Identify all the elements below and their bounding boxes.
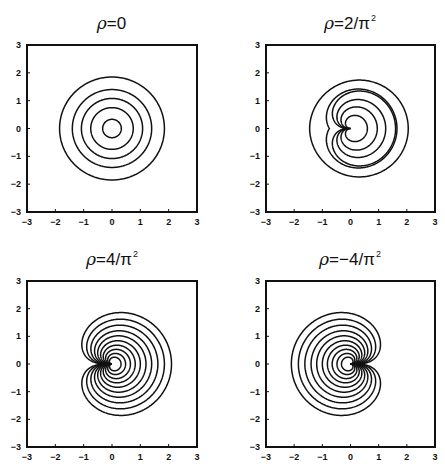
y-tick-label: 3 (255, 40, 260, 50)
y-tick-label: 0 (16, 359, 21, 369)
contour-line (345, 115, 367, 141)
x-tick-label: 1 (376, 217, 381, 227)
x-tick-label: 3 (194, 452, 199, 462)
x-tick-label: 2 (166, 452, 171, 462)
y-tick-label: −1 (250, 387, 260, 397)
y-tick-label: 2 (255, 68, 260, 78)
x-tick-label: −3 (261, 452, 271, 462)
y-tick-label: −1 (11, 151, 21, 161)
plot-frame (27, 45, 197, 212)
contour-line (60, 77, 165, 180)
x-tick-label: 3 (432, 217, 437, 227)
x-tick-label: −1 (79, 452, 89, 462)
y-tick-label: −2 (11, 414, 21, 424)
y-tick-label: −3 (250, 442, 260, 452)
plot-br: −3−2−10123−3−2−10123 (250, 276, 438, 462)
plot-tr: −3−2−10123−3−2−10123 (250, 40, 438, 227)
y-tick-label: 2 (16, 68, 21, 78)
contour-line (341, 107, 377, 150)
contour-line (110, 357, 122, 371)
x-tick-label: −2 (50, 452, 60, 462)
x-tick-label: 1 (376, 452, 381, 462)
x-tick-label: 0 (348, 217, 353, 227)
x-tick-label: −1 (317, 452, 327, 462)
plot-bl: −3−2−10123−3−2−10123 (11, 276, 200, 462)
y-tick-label: 2 (16, 304, 21, 314)
x-tick-label: 2 (166, 217, 171, 227)
plot-canvas: −3−2−10123−3−2−10123−3−2−10123−3−2−10123… (0, 0, 445, 472)
y-tick-label: 2 (255, 304, 260, 314)
x-tick-label: 0 (109, 217, 114, 227)
x-tick-label: 0 (109, 452, 114, 462)
x-tick-label: 2 (404, 452, 409, 462)
y-tick-label: 1 (16, 331, 21, 341)
y-tick-label: 1 (255, 331, 260, 341)
contour-line (91, 108, 134, 150)
contour-line (72, 90, 151, 168)
plot-tl: −3−2−10123−3−2−10123 (11, 40, 200, 227)
x-tick-label: −2 (50, 217, 60, 227)
y-tick-label: −2 (250, 414, 260, 424)
y-tick-label: −3 (11, 207, 21, 217)
y-tick-label: −2 (11, 179, 21, 189)
contour-line (103, 119, 122, 137)
y-tick-label: −2 (250, 179, 260, 189)
x-tick-label: −1 (79, 217, 89, 227)
y-tick-label: 0 (255, 124, 260, 134)
x-tick-label: −3 (261, 217, 271, 227)
y-tick-label: 1 (16, 96, 21, 106)
contour-line (341, 357, 352, 371)
y-tick-label: −3 (250, 207, 260, 217)
x-tick-label: −3 (22, 452, 32, 462)
x-tick-label: −2 (289, 452, 299, 462)
y-tick-label: 3 (16, 276, 21, 286)
y-tick-label: 1 (255, 96, 260, 106)
x-tick-label: 0 (348, 452, 353, 462)
x-tick-label: 3 (194, 217, 199, 227)
x-tick-label: −3 (22, 217, 32, 227)
y-tick-label: −3 (11, 442, 21, 452)
x-tick-label: 1 (138, 217, 143, 227)
x-tick-label: 2 (404, 217, 409, 227)
x-tick-label: −2 (289, 217, 299, 227)
contour-line (310, 80, 409, 177)
y-tick-label: 3 (255, 276, 260, 286)
x-tick-label: −1 (317, 217, 327, 227)
y-tick-label: −1 (11, 387, 21, 397)
y-tick-label: 0 (255, 359, 260, 369)
y-tick-label: −1 (250, 151, 260, 161)
y-tick-label: 0 (16, 124, 21, 134)
x-tick-label: 1 (138, 452, 143, 462)
x-tick-label: 3 (432, 452, 437, 462)
y-tick-label: 3 (16, 40, 21, 50)
